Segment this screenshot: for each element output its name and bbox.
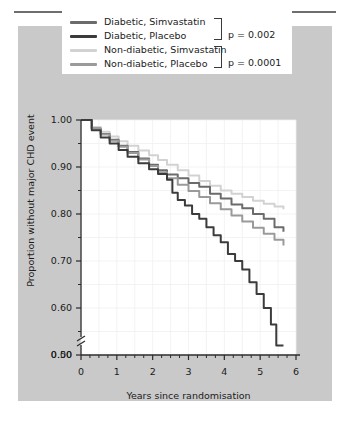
y-tick-label: 0.60 — [38, 302, 72, 313]
x-tick-label: 5 — [252, 366, 268, 377]
x-tick-label: 0 — [73, 366, 89, 377]
x-tick-label: 6 — [288, 366, 304, 377]
y-tick-label: 1.00 — [38, 114, 72, 125]
x-tick-label: 2 — [145, 366, 161, 377]
x-tick-label: 1 — [109, 366, 125, 377]
y-axis-label: Proportion without major CHD event — [25, 111, 36, 291]
chart-plot-area: Proportion without major CHD event Years… — [0, 0, 350, 421]
y-tick-label: 0.90 — [38, 161, 72, 172]
x-tick-label: 3 — [181, 366, 197, 377]
y-tick-label: 0.70 — [38, 255, 72, 266]
y-tick-label-zero: 0.00 — [38, 349, 72, 360]
y-tick-label: 0.80 — [38, 208, 72, 219]
x-axis-label: Years since randomisation — [81, 390, 296, 401]
x-tick-label: 4 — [216, 366, 232, 377]
